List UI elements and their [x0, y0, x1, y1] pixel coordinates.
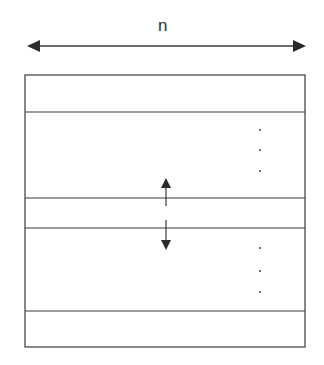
up-arrow-icon: [161, 178, 171, 206]
vertical-ellipsis-upper-icon: [259, 129, 261, 172]
row-dividers: [25, 112, 305, 311]
width-arrow-icon: [27, 40, 306, 52]
outer-box: [25, 75, 305, 347]
vertical-ellipsis-lower-icon: [259, 247, 261, 293]
diagram-canvas: [0, 0, 324, 365]
down-arrow-icon: [161, 220, 171, 250]
